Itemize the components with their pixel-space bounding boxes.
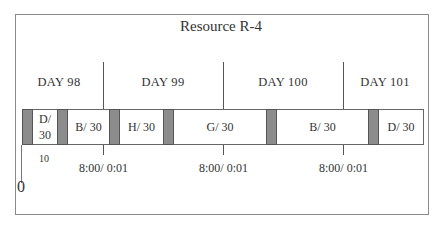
- tick-label-day-99: 8:00/ 0:01: [79, 161, 128, 176]
- day-label-99: DAY 99: [133, 75, 193, 90]
- origin-label: 0: [17, 178, 25, 196]
- task-segment-b-2: B/ 30: [277, 109, 368, 145]
- task-label-line2: 30: [39, 127, 51, 143]
- task-segment-h: H/ 30: [120, 109, 163, 145]
- tick-label-day-100: 8:00/ 0:01: [199, 161, 248, 176]
- setup-block-6: [368, 109, 379, 145]
- task-label: G/ 30: [207, 119, 234, 135]
- day-label-98: DAY 98: [29, 75, 89, 90]
- task-label: H/ 30: [128, 119, 155, 135]
- day-label-100: DAY 100: [253, 75, 313, 90]
- task-segment-b-1: B/ 30: [68, 109, 109, 145]
- setup-block-2: [57, 109, 68, 145]
- setup-block-4: [163, 109, 174, 145]
- task-label-line1: D/: [39, 111, 51, 127]
- tick-day-101: [343, 145, 344, 155]
- task-segment-d-1: D/ 30: [33, 109, 57, 145]
- tick-label-10: 10: [39, 153, 49, 164]
- day-label-101: DAY 101: [355, 75, 415, 90]
- day-divider-100-101: [343, 62, 344, 109]
- task-label: B/ 30: [75, 119, 101, 135]
- setup-block-3: [109, 109, 120, 145]
- task-label: B/ 30: [309, 119, 335, 135]
- task-label: D/ 30: [388, 119, 415, 135]
- day-divider-99-100: [223, 62, 224, 109]
- diagram-title: Resource R-4: [0, 18, 442, 35]
- task-segment-g: G/ 30: [174, 109, 266, 145]
- day-divider-98-99: [103, 62, 104, 109]
- setup-block-5: [266, 109, 277, 145]
- tick-label-day-101: 8:00/ 0:01: [319, 161, 368, 176]
- task-segment-d-2: D/ 30: [379, 109, 423, 145]
- setup-block-1: [22, 109, 33, 145]
- tick-day-100: [223, 145, 224, 155]
- tick-day-99: [103, 145, 104, 155]
